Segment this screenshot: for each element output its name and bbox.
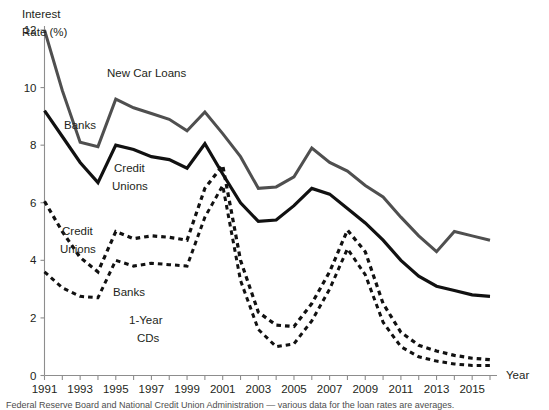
x-tick-label-1999: 1999 — [174, 383, 200, 395]
x-axis-label: Year — [506, 369, 529, 381]
x-tick-label-2015: 2015 — [459, 383, 485, 395]
series-line-new-car-loans-credit-unions — [45, 111, 491, 297]
y-tick-label-4: 4 — [30, 254, 37, 266]
series-line-1-year-cds-banks — [45, 185, 491, 365]
x-tick-label-1995: 1995 — [103, 383, 129, 395]
y-tick-label-8: 8 — [30, 139, 36, 151]
y-axis-label-line1: Interest — [22, 8, 61, 20]
x-tick-label-1993: 1993 — [67, 383, 93, 395]
x-tick-label-2007: 2007 — [317, 383, 343, 395]
y-tick-label-0: 0 — [30, 370, 36, 382]
title-new-car-loans: New Car Loans — [107, 67, 187, 79]
x-tick-label-1991: 1991 — [32, 383, 58, 395]
series-line-1-year-cds-credit-unions — [45, 165, 491, 359]
x-tick-label-2013: 2013 — [424, 383, 450, 395]
y-tick-label-10: 10 — [24, 82, 37, 94]
label-cds-l2: CDs — [137, 332, 160, 344]
y-axis-ticks: 024681012 — [24, 24, 45, 382]
series-line-new-car-loans-banks — [45, 30, 491, 252]
x-tick-label-2009: 2009 — [352, 383, 378, 395]
x-tick-label-2011: 2011 — [389, 383, 414, 395]
y-tick-label-2: 2 — [30, 312, 36, 324]
chart-series-lines — [45, 30, 491, 365]
label-credit-unions-upper-l1: Credit — [114, 162, 145, 174]
source-note: Federal Reserve Board and National Credi… — [6, 400, 454, 410]
x-tick-label-2003: 2003 — [246, 383, 272, 395]
label-banks-upper: Banks — [64, 119, 96, 131]
interest-rate-line-chart: 024681012 199119931995199719992001200320… — [0, 0, 549, 410]
chart-container: 024681012 199119931995199719992001200320… — [0, 0, 549, 410]
x-tick-label-2001: 2001 — [210, 383, 236, 395]
y-axis-label-line2: Rate (%) — [22, 26, 68, 38]
label-cds-l1: 1-Year — [129, 314, 163, 326]
label-credit-unions-lower-l2: Unions — [60, 243, 96, 255]
x-tick-label-1997: 1997 — [139, 383, 165, 395]
label-credit-unions-upper-l2: Unions — [112, 180, 148, 192]
chart-annotations: New Car LoansBanksCreditUnionsCreditUnio… — [60, 67, 187, 344]
label-credit-unions-lower-l1: Credit — [62, 225, 93, 237]
label-banks-lower: Banks — [113, 286, 145, 298]
y-tick-label-6: 6 — [30, 197, 36, 209]
x-tick-label-2005: 2005 — [281, 383, 307, 395]
x-axis-ticks: 1991199319951997199920012003200520072009… — [32, 376, 490, 395]
